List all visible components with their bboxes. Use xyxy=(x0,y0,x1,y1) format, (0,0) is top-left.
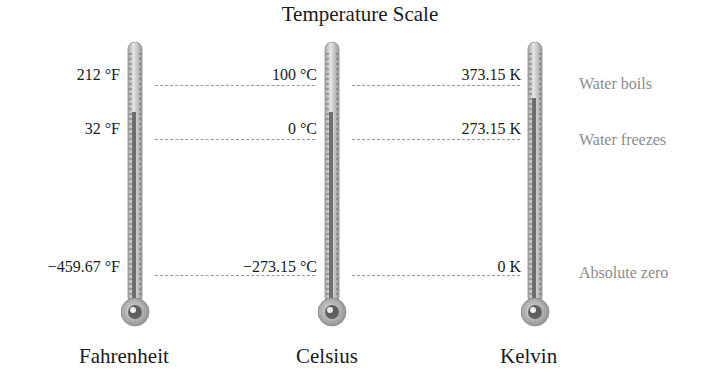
diagram-title: Temperature Scale xyxy=(0,2,720,27)
celsius-freezes-label: 0 °C xyxy=(288,120,317,138)
boils-dash-left xyxy=(155,85,315,86)
kelvin-zero-label: 0 K xyxy=(497,258,521,276)
thermometer-kelvin-icon xyxy=(521,42,557,328)
water-boils-note: Water boils xyxy=(579,75,652,93)
fahrenheit-zero-label: −459.67 °F xyxy=(48,258,120,276)
celsius-zero-label: −273.15 °C xyxy=(243,258,317,276)
celsius-boils-label: 100 °C xyxy=(272,66,317,84)
freezes-dash-right xyxy=(352,139,520,140)
fahrenheit-freezes-label: 32 °F xyxy=(85,120,120,138)
scale-name-celsius: Celsius xyxy=(296,344,358,369)
kelvin-boils-label: 373.15 K xyxy=(461,66,521,84)
scale-name-fahrenheit: Fahrenheit xyxy=(79,344,169,369)
water-freezes-note: Water freezes xyxy=(579,131,666,149)
boils-dash-right xyxy=(352,85,520,86)
zero-dash-right xyxy=(352,275,520,276)
absolute-zero-note: Absolute zero xyxy=(579,264,668,282)
thermometer-fahrenheit-icon xyxy=(121,42,157,328)
freezes-dash-left xyxy=(155,139,315,140)
thermometer-celsius-icon xyxy=(318,42,354,328)
scale-name-kelvin: Kelvin xyxy=(500,344,557,369)
kelvin-freezes-label: 273.15 K xyxy=(461,120,521,138)
fahrenheit-boils-label: 212 °F xyxy=(77,66,120,84)
